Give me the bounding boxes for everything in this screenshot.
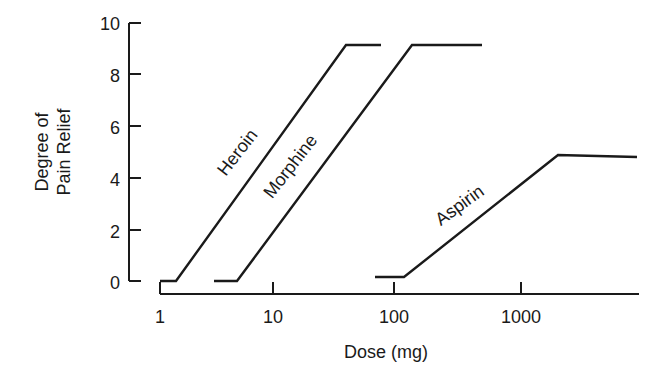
x-tick-labels: 1 10 100 1000 (155, 307, 541, 327)
y-axis (129, 23, 141, 281)
y-tick-label: 8 (110, 66, 120, 86)
dose-response-chart: 10 8 6 4 2 0 Degree of Pain Relief 1 10 … (0, 0, 666, 379)
y-tick-label: 2 (110, 222, 120, 242)
y-tick-label: 10 (100, 14, 120, 34)
x-axis (160, 282, 639, 294)
x-tick-label: 1 (155, 307, 165, 327)
y-axis-title: Degree of Pain Relief (32, 107, 74, 195)
x-axis-title: Dose (mg) (344, 342, 428, 362)
aspirin-line (375, 155, 637, 277)
heroin-line (160, 45, 381, 281)
morphine-label: Morphine (259, 131, 321, 202)
x-tick-label: 100 (379, 307, 409, 327)
y-axis-title-line2: Pain Relief (54, 107, 74, 195)
y-tick-labels: 10 8 6 4 2 0 (100, 14, 120, 293)
y-axis-title-line1: Degree of (32, 111, 52, 191)
x-tick-label: 10 (263, 307, 283, 327)
y-tick-label: 6 (110, 118, 120, 138)
y-tick-label: 4 (110, 170, 120, 190)
x-tick-label: 1000 (501, 307, 541, 327)
y-tick-label: 0 (110, 273, 120, 293)
aspirin-label: Aspirin (431, 181, 487, 230)
